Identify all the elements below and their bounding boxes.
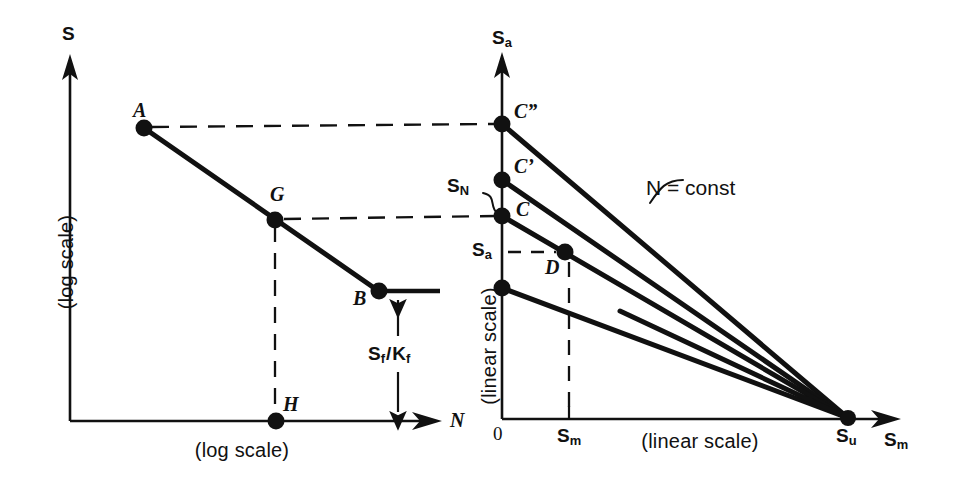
dimension-denominator-sub: f [406,351,410,366]
right-y-axis-label-sub: a [505,35,512,50]
dashed-a-to-cdoubleprime [152,124,496,127]
right-panel-dashed-guides [508,252,569,412]
right-x-axis-label: Sm [884,430,908,452]
left-panel-curve [144,128,440,292]
tick-sm-sub: m [570,433,581,448]
tick-sa-base: S [472,239,485,260]
dimension-label-sf-kf: Sf/Kf [368,344,410,366]
right-y-axis-label-base: S [492,27,505,48]
callout-label-n-const: N = const [646,177,735,198]
tick-label-sa: Sa [472,240,492,262]
dashed-g-to-c [284,216,496,219]
tick-sm-base: S [557,425,570,446]
point-marker-g [267,212,284,229]
dimension-denominator: K [392,343,406,364]
right-y-axis-label: Sa [492,28,512,50]
origin-label-zero: 0 [493,424,503,443]
constant-life-line-c [502,216,848,418]
point-marker-c-double-prime [494,116,511,133]
tick-sa-sub: a [485,247,492,262]
point-label-a: A [133,100,146,120]
callout-label-sn: SN [447,176,469,198]
point-label-c-prime: C’ [514,156,534,176]
point-marker-su [840,410,856,426]
figure-canvas: S (log scale) A G B H Sf/Kf N (log scale… [0,0,954,485]
right-x-axis-label-sub: m [897,437,908,452]
callout-sn-sub: N [460,183,469,198]
point-label-g: G [270,184,284,204]
left-y-axis-label: S [62,24,75,43]
constant-life-line-partial [620,311,848,418]
tick-su-sub: u [849,433,857,448]
callout-sn-base: S [447,175,460,196]
constant-life-line-cprime [502,180,848,418]
right-y-scale-note: (linear scale) [479,261,499,431]
dimension-numerator: S [368,343,381,364]
tick-label-sm: Sm [557,426,581,448]
constant-life-line-lowest [502,288,848,418]
curve-segment-ab [144,128,380,292]
tick-su-base: S [836,425,849,446]
point-label-d: D [545,257,559,277]
tick-label-su: Su [836,426,857,448]
left-x-axis-label: N [450,410,464,430]
point-label-c: C [516,199,529,219]
left-panel-axes [62,54,442,430]
right-x-scale-note: (linear scale) [630,431,770,451]
point-marker-c-prime [494,172,511,189]
right-panel-axes [494,52,901,428]
left-x-scale-note: (log scale) [172,440,312,460]
point-label-b: B [353,288,366,308]
point-label-h: H [283,394,299,414]
point-marker-b [371,283,388,300]
point-label-c-double-prime: C” [514,101,537,121]
right-x-axis-label-base: S [884,429,897,450]
point-marker-c [494,208,511,225]
point-marker-h [268,413,285,430]
leader-line-sn [483,193,497,213]
left-y-scale-note: (log scale) [56,182,76,342]
left-panel-markers [136,120,388,430]
point-marker-a [136,120,153,137]
